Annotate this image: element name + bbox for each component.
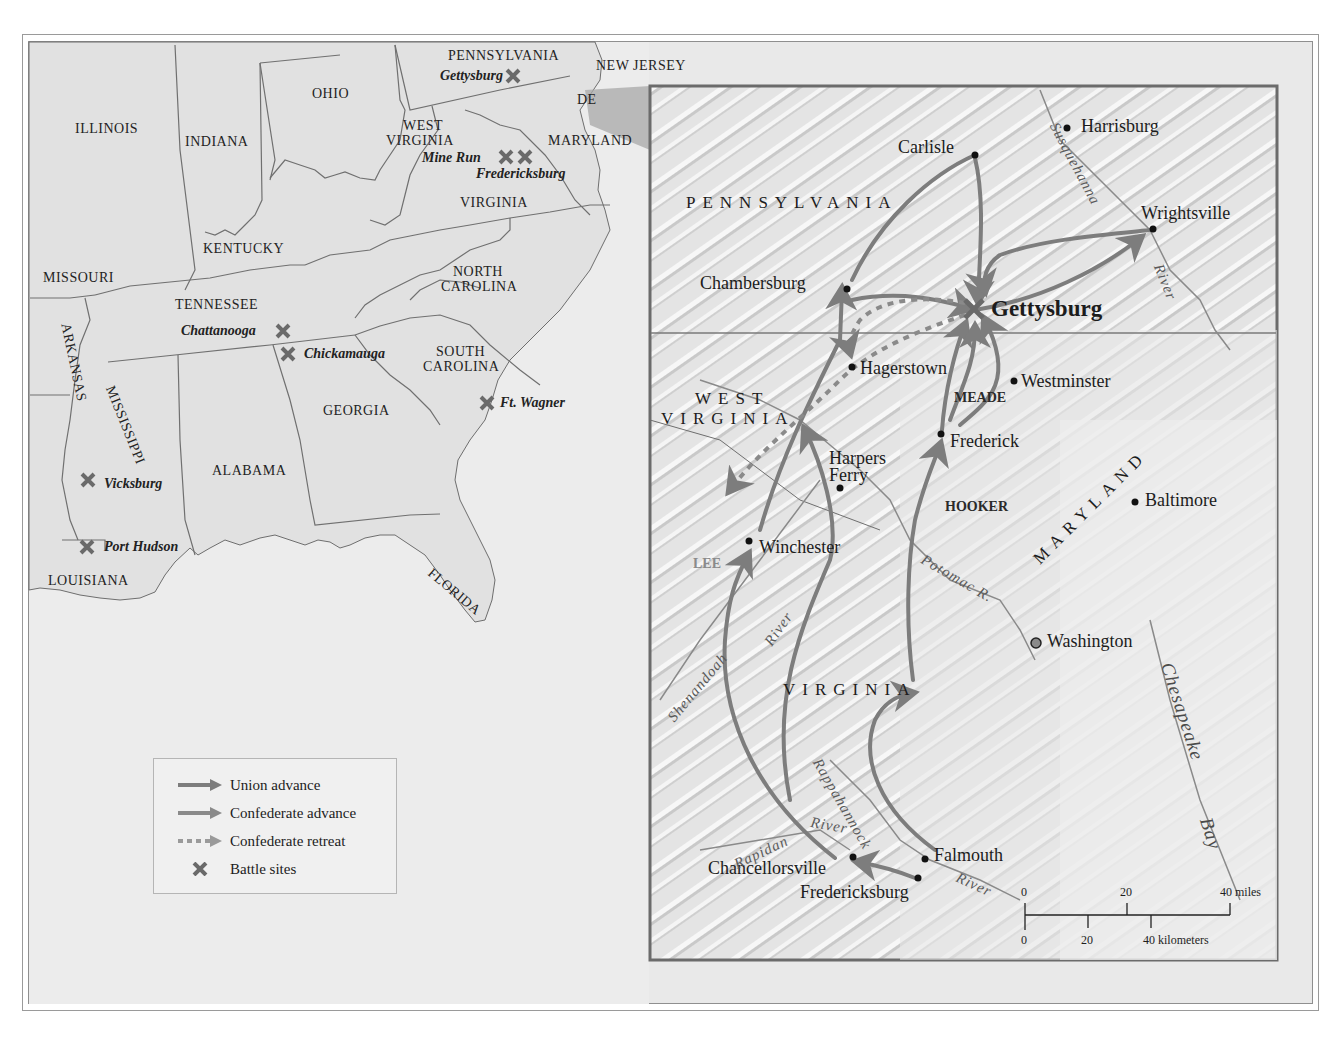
state-label-south-carolina: CAROLINA [423,360,499,374]
city-label-carlisle: Carlisle [898,138,954,156]
battle-label-vicksburg: Vicksburg [104,477,162,491]
battle-label-mine-run: Mine Run [422,151,481,165]
state-label-tennessee: TENNESSEE [175,298,258,312]
state-label-georgia: GEORGIA [323,404,390,418]
city-label-harrisburg: Harrisburg [1081,117,1159,135]
state-label-ohio: OHIO [312,87,349,101]
region-label-virginia: VIRGINIA [783,681,916,698]
city-label-washington: Washington [1047,632,1133,650]
state-label-north: NORTH [453,265,503,279]
battle-label-chickamauga: Chickamauga [304,347,385,361]
state-label-alabama: ALABAMA [212,464,286,478]
city-label-chancellorsville: Chancellorsville [708,859,826,877]
dashed-arrow-icon [174,834,226,848]
battle-label-chattanooga: Chattanooga [181,324,256,338]
city-label-winchester: Winchester [759,538,840,556]
state-label-missouri: MISSOURI [43,271,114,285]
state-label-virginia: VIRGINIA [460,196,528,210]
city-label-fredericksburg: Fredericksburg [800,883,909,901]
x-mark-icon [174,862,226,876]
general-label-lee: LEE [693,557,721,571]
legend-label: Union advance [230,777,320,794]
city-label-chambersburg: Chambersburg [700,274,806,292]
region-label-west: WEST [695,390,769,407]
city-label-westminster: Westminster [1021,372,1111,390]
city-label-ferry: Ferry [829,466,868,484]
solid-arrow-icon [174,778,226,792]
state-label-pennsylvania: PENNSYLVANIA [448,49,559,63]
state-label-kentucky: KENTUCKY [203,242,284,256]
city-label-wrightsville: Wrightsville [1141,204,1230,222]
scale-km-40: 40 kilometers [1143,934,1209,946]
battle-label-fredericksburg: Fredericksburg [476,167,565,181]
city-label-gettysburg: Gettysburg [991,297,1102,320]
state-label-west-virginia: VIRGINIA [386,134,454,148]
city-label-falmouth: Falmouth [934,846,1003,864]
state-label-indiana: INDIANA [185,135,248,149]
scale-miles-20: 20 [1120,886,1132,898]
scale-miles-0: 0 [1021,886,1027,898]
city-label-frederick: Frederick [950,432,1019,450]
solid-arrow-icon [174,806,226,820]
battle-label-gettysburg: Gettysburg [440,69,503,83]
legend-item-confederate-advance: Confederate advance [174,803,356,823]
legend-label: Battle sites [230,861,296,878]
legend-item-battle-sites: Battle sites [174,859,296,879]
scale-km-0: 0 [1021,934,1027,946]
scale-km-20: 20 [1081,934,1093,946]
state-label-south: SOUTH [436,345,485,359]
capital-marker-washington [1031,638,1041,648]
city-label-hagerstown: Hagerstown [860,359,947,377]
state-label-new-jersey: NEW JERSEY [596,59,686,73]
state-label-maryland: MARYLAND [548,134,632,148]
general-label-meade: MEADE [954,391,1006,405]
city-label-baltimore: Baltimore [1145,491,1217,509]
map-legend: Union advance Confederate advance Confed… [153,758,397,894]
battle-label-port-hudson: Port Hudson [104,540,178,554]
state-label-illinois: ILLINOIS [75,122,138,136]
legend-item-union-advance: Union advance [174,775,320,795]
battle-label-ft-wagner: Ft. Wagner [500,396,565,410]
legend-label: Confederate retreat [230,833,345,850]
region-label-west-virginia: VIRGINIA [661,410,794,427]
general-label-hooker: HOOKER [945,500,1008,514]
state-label-louisiana: LOUISIANA [48,574,129,588]
state-label-west: WEST [403,119,443,133]
legend-label: Confederate advance [230,805,356,822]
state-label-north-carolina: CAROLINA [441,280,517,294]
state-label-delaware: DE [577,93,597,107]
region-label-pennsylvania: PENNSYLVANIA [686,194,898,211]
scale-miles-40: 40 miles [1220,886,1261,898]
legend-item-confederate-retreat: Confederate retreat [174,831,345,851]
